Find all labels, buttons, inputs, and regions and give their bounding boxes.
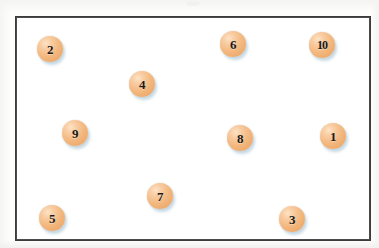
numbered-ball-8: 8 [227, 125, 253, 151]
numbered-ball-1: 1 [320, 123, 346, 149]
diagram-frame: 26104981753 [15, 16, 371, 241]
numbered-ball-4: 4 [129, 71, 155, 97]
numbered-ball-2: 2 [37, 36, 63, 62]
numbered-ball-5: 5 [39, 205, 65, 231]
numbered-ball-3: 3 [279, 206, 305, 232]
figure-canvas: 26104981753 [0, 0, 379, 248]
numbered-ball-7: 7 [147, 183, 173, 209]
numbered-ball-10: 10 [309, 32, 335, 58]
numbered-ball-6: 6 [220, 31, 246, 57]
numbered-ball-9: 9 [62, 120, 88, 146]
scan-artifact-mark [186, 1, 200, 6]
